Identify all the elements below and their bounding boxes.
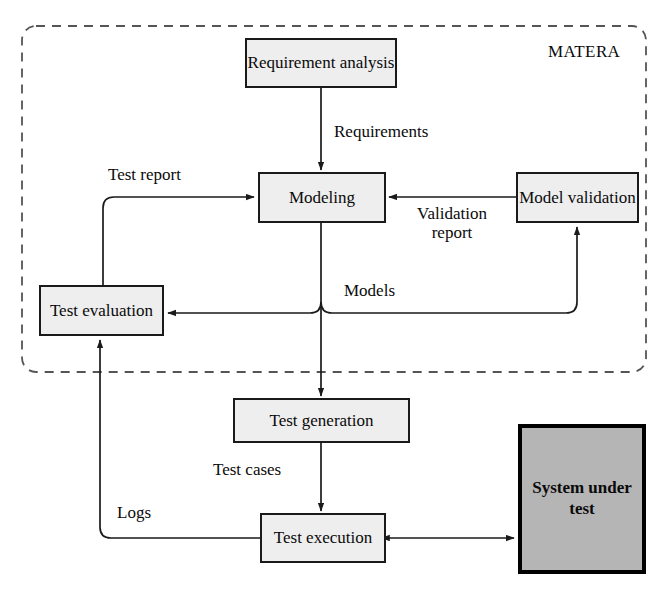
edge-label-models: Models [344,281,395,300]
node-test-execution[interactable]: Test execution [260,513,386,563]
edge-label-logs: Logs [117,503,151,522]
edge-models-to-test-evaluation [168,302,321,313]
edge-label-requirements: Requirements [334,122,428,141]
node-test-generation[interactable]: Test generation [233,398,410,443]
node-modeling[interactable]: Modeling [258,172,386,223]
edge-label-test-cases: Test cases [213,460,281,479]
edge-label-validation-report: Validation report [404,204,500,243]
matera-group-label: MATERA [548,42,620,62]
edge-label-test-report: Test report [108,165,181,184]
node-system-under-test[interactable]: System under test [518,424,646,574]
node-model-validation[interactable]: Model validation [516,172,639,223]
node-requirement-analysis[interactable]: Requirement analysis [245,38,397,88]
node-test-evaluation[interactable]: Test evaluation [39,285,164,336]
edge-test-report [103,197,254,285]
diagram-canvas: MATERA Requirement analysis Modeling Mod… [0,0,671,592]
